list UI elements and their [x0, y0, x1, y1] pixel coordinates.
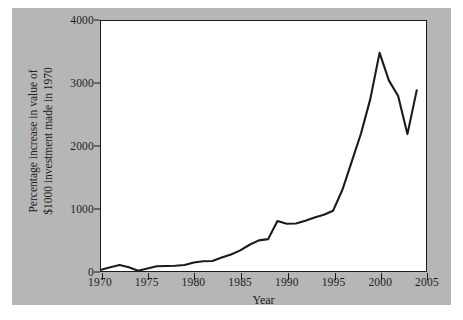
x-axis-tick-label: 1970	[88, 276, 112, 288]
x-axis-tick-label: 1985	[228, 276, 252, 288]
chart-figure: Percentage increase in value of $1000 in…	[12, 8, 451, 305]
data-series-line	[101, 21, 426, 271]
y-axis-tick-label: 4000	[70, 14, 94, 26]
x-axis-tick-label: 1995	[322, 276, 346, 288]
x-axis-title: Year	[100, 293, 427, 308]
y-axis-tick-label: 1000	[70, 203, 94, 215]
x-axis-tick-label: 1990	[275, 276, 299, 288]
x-axis-tick-label: 1975	[135, 276, 159, 288]
y-axis-tick-label: 2000	[70, 140, 94, 152]
x-axis-tick-label: 1980	[182, 276, 206, 288]
x-axis-tick-label: 2005	[415, 276, 439, 288]
x-axis-tick-label: 2000	[368, 276, 392, 288]
plot-area	[100, 20, 427, 272]
x-axis-tick-labels: 19701975198019851990199520002005	[100, 276, 427, 294]
y-axis-tick-labels: 01000200030004000	[40, 8, 94, 305]
y-axis-title-line-1: Percentage increase in value of	[26, 16, 41, 266]
y-axis-tick-label: 3000	[70, 77, 94, 89]
